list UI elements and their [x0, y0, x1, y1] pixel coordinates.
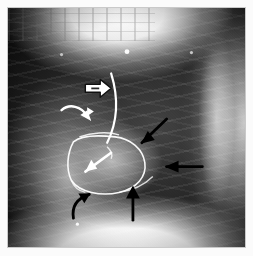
- curved-arrow-black-icon: [73, 193, 90, 218]
- curved-arrow-white-icon: [62, 105, 95, 121]
- image-frame: [7, 7, 246, 248]
- marker-dot-bottom: [76, 223, 79, 226]
- marker-dot-upper: [125, 49, 130, 54]
- marker-dot-right: [190, 51, 193, 54]
- mass-outline-white: [68, 136, 145, 194]
- radiograph-figure: [0, 0, 253, 256]
- horizontal-arrow-black-icon: [165, 161, 203, 173]
- open-arrow-right-icon: [85, 79, 111, 97]
- straight-arrow-white-icon: [85, 153, 111, 172]
- annotation-overlay: [8, 8, 245, 247]
- marker-dot-left: [60, 53, 63, 56]
- diagonal-arrow-black-icon: [141, 119, 167, 144]
